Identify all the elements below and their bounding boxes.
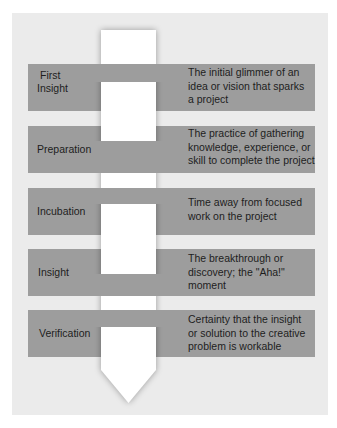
process-arrow bbox=[101, 30, 156, 404]
label-line: First bbox=[40, 69, 68, 82]
label-line: Insight bbox=[37, 82, 68, 95]
stage-label-insight: Insight bbox=[38, 266, 69, 279]
description-line: Time away from focused bbox=[188, 196, 320, 210]
stage-label-first-insight: First Insight bbox=[40, 69, 68, 95]
description-line: problem is workable bbox=[188, 340, 320, 354]
down-arrow-icon bbox=[101, 30, 156, 404]
description-line: a project bbox=[188, 93, 320, 107]
stage-label-incubation: Incubation bbox=[37, 205, 85, 218]
description-line: knowledge, experience, or bbox=[188, 141, 320, 155]
stage-description-preparation: The practice of gathering knowledge, exp… bbox=[188, 127, 320, 168]
description-line: The practice of gathering bbox=[188, 127, 320, 141]
description-line: The breakthrough or bbox=[188, 252, 320, 266]
stage-description-verification: Certainty that the insight or solution t… bbox=[188, 313, 320, 354]
description-line: work on the project bbox=[188, 210, 320, 224]
stage-description-incubation: Time away from focused work on the proje… bbox=[188, 196, 320, 223]
description-line: moment bbox=[188, 279, 320, 293]
description-line: or solution to the creative bbox=[188, 327, 320, 341]
description-line: idea or vision that sparks bbox=[188, 80, 320, 94]
stage-label-verification: Verification bbox=[39, 327, 90, 340]
stage-description-insight: The breakthrough or discovery; the "Aha!… bbox=[188, 252, 320, 293]
stage-description-first-insight: The initial glimmer of an idea or vision… bbox=[188, 66, 320, 107]
description-line: The initial glimmer of an bbox=[188, 66, 320, 80]
description-line: discovery; the "Aha!" bbox=[188, 266, 320, 280]
description-line: skill to complete the project bbox=[188, 154, 320, 168]
description-line: Certainty that the insight bbox=[188, 313, 320, 327]
stage-label-preparation: Preparation bbox=[37, 143, 91, 156]
